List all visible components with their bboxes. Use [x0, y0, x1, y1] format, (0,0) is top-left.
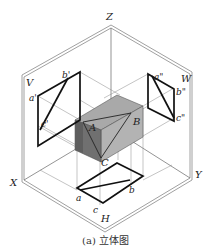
h-plane-label: H [100, 213, 110, 224]
h-projection [77, 163, 143, 203]
w-plane-label: W [181, 73, 192, 84]
box-front-shade [75, 120, 83, 153]
w-proj-c-label: c" [176, 113, 185, 123]
v-plane-label: V [26, 77, 35, 88]
point-a-label: A [88, 122, 96, 133]
w-proj-b-label: b" [176, 87, 186, 97]
three-view-projection-diagram: Z X Y V W H A B C b' a' c' a" b" c" a b … [0, 0, 211, 250]
v-projection [38, 72, 80, 146]
v-proj-a-label: a' [29, 93, 37, 103]
figure-caption: (a) 立体图 [0, 232, 211, 247]
y-axis-label: Y [195, 169, 203, 180]
v-proj-b-label: b' [62, 70, 70, 80]
x-axis-label: X [9, 177, 18, 188]
z-axis-label: Z [105, 11, 114, 22]
v-proj-c-label: c' [41, 119, 49, 129]
w-proj-a-label: a" [154, 72, 164, 82]
h-proj-a-label: a [76, 193, 81, 203]
point-c-label: C [101, 157, 109, 168]
h-proj-c-label: c [93, 205, 98, 215]
h-proj-b-label: b [129, 185, 135, 195]
point-b-label: B [132, 116, 140, 127]
solid-box [75, 95, 143, 162]
